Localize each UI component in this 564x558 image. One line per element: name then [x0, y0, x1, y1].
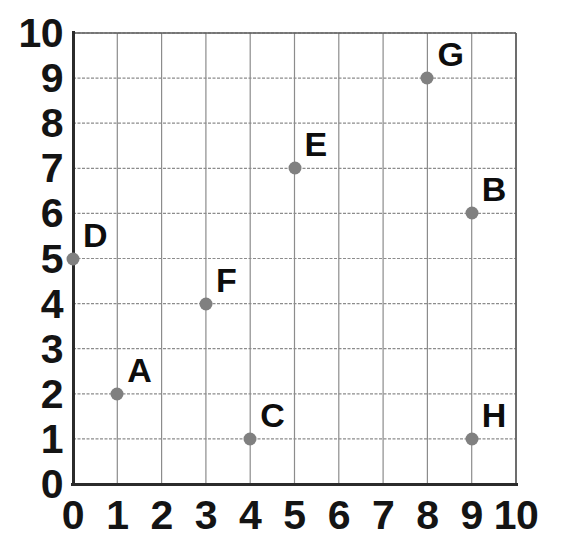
- x-axis-tick-label: 9: [461, 495, 483, 536]
- data-point-marker: [199, 297, 212, 310]
- data-point-label: G: [437, 37, 463, 71]
- y-axis-tick-label: 4: [41, 283, 63, 324]
- data-point-label: B: [482, 172, 507, 206]
- x-axis-tick-label: 8: [416, 495, 438, 536]
- y-axis-tick-label: 10: [18, 13, 63, 54]
- coordinate-grid-plot: 012345678910012345678910ABCDEFGH: [0, 0, 564, 558]
- data-point-marker: [465, 207, 478, 220]
- data-point-marker: [244, 432, 257, 445]
- data-point-marker: [111, 387, 124, 400]
- x-axis-tick-label: 2: [150, 495, 172, 536]
- data-point-marker: [421, 72, 434, 85]
- y-axis-tick-label: 3: [41, 328, 63, 369]
- data-point-label: F: [216, 263, 237, 297]
- y-axis-tick-label: 1: [41, 418, 63, 459]
- data-point-marker: [288, 162, 301, 175]
- y-axis-tick-label: 5: [41, 238, 63, 279]
- grid-lines-layer: [0, 0, 564, 558]
- data-point-marker: [67, 252, 80, 265]
- x-axis-tick-label: 7: [372, 495, 394, 536]
- x-axis-line: [71, 483, 518, 486]
- y-axis-tick-label: 8: [41, 103, 63, 144]
- x-axis-tick-label: 4: [239, 495, 261, 536]
- x-axis-tick-label: 1: [106, 495, 128, 536]
- y-axis-tick-label: 7: [41, 148, 63, 189]
- y-axis-tick-label: 2: [41, 373, 63, 414]
- x-axis-tick-label: 0: [62, 495, 84, 536]
- data-point-label: H: [482, 398, 507, 432]
- x-axis-tick-label: 3: [195, 495, 217, 536]
- x-axis-tick-label: 6: [328, 495, 350, 536]
- x-axis-tick-label: 5: [283, 495, 305, 536]
- data-point-label: D: [83, 218, 108, 252]
- y-axis-tick-label: 9: [41, 58, 63, 99]
- data-point-label: E: [305, 127, 328, 161]
- y-axis-tick-label: 6: [41, 193, 63, 234]
- x-axis-tick-label: 10: [494, 495, 539, 536]
- y-axis-tick-label: 0: [41, 464, 63, 505]
- data-point-marker: [465, 432, 478, 445]
- data-point-label: A: [127, 353, 152, 387]
- data-point-label: C: [260, 398, 285, 432]
